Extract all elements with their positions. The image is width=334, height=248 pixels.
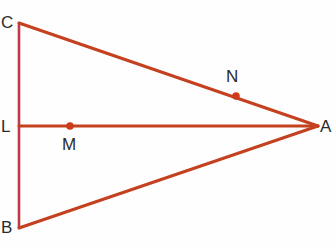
geometry-canvas bbox=[0, 0, 334, 248]
point-dot-M bbox=[66, 122, 74, 130]
point-label-m: M bbox=[62, 136, 76, 153]
vertex-label-a: A bbox=[320, 118, 332, 135]
vertex-label-l: L bbox=[1, 118, 11, 135]
vertex-label-c: C bbox=[1, 14, 13, 31]
point-label-n: N bbox=[226, 68, 238, 85]
geometry-diagram: C B L A N M bbox=[0, 0, 334, 248]
segment-CA bbox=[19, 23, 318, 126]
vertex-label-b: B bbox=[1, 219, 13, 236]
point-dot-N bbox=[232, 92, 240, 100]
